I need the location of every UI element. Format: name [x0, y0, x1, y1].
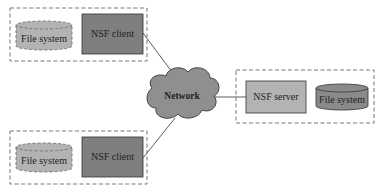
nsf-server-label: NSF server — [253, 91, 299, 102]
client-group-bottom: File system NSF client — [10, 131, 147, 184]
file-system-label: File system — [319, 94, 365, 105]
network-label: Network — [164, 91, 200, 101]
nsf-client-label: NSF client — [91, 28, 134, 39]
edge-client-bottom-network — [143, 118, 175, 158]
file-system-label: File system — [21, 33, 67, 44]
file-system-label: File system — [21, 155, 67, 166]
nsf-client-label: NSF client — [91, 151, 134, 162]
client-group-top: File system NSF client — [10, 8, 147, 61]
server-group: NSF server File system — [236, 70, 374, 123]
nfs-architecture-diagram: File system NSF client File system NSF c… — [0, 0, 382, 194]
